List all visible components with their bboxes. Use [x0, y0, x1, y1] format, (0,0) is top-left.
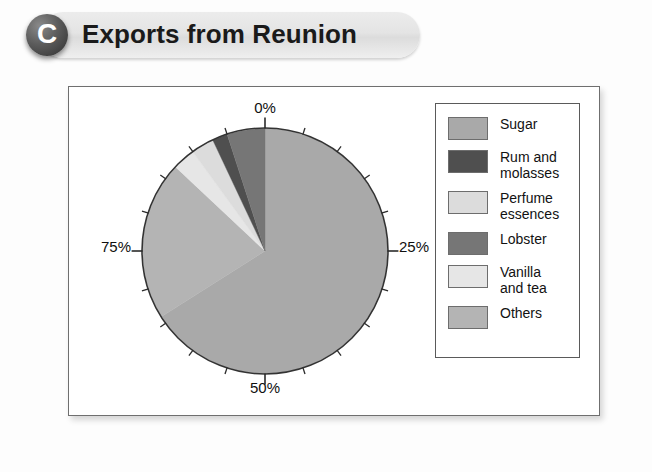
pie-svg: [115, 101, 415, 401]
pie-tick-minor: [337, 350, 341, 356]
legend-item[interactable]: Rum and molasses: [436, 149, 579, 181]
legend-item-label: Vanilla and tea: [500, 264, 547, 296]
legend-item-label: Rum and molasses: [500, 149, 559, 181]
chart-panel: 0% 25% 50% 75% SugarRum and molassesPerf…: [68, 86, 600, 416]
axis-label-left: 75%: [101, 238, 131, 255]
panel-letter-badge: C: [26, 14, 68, 56]
pie-tick-minor: [160, 175, 166, 179]
pie-tick-minor: [364, 175, 370, 179]
axis-label-bottom: 50%: [250, 379, 280, 396]
legend-swatch: [448, 265, 488, 288]
pie-tick-minor: [160, 323, 166, 327]
legend-item[interactable]: Sugar: [436, 116, 579, 140]
legend-swatch: [448, 232, 488, 255]
legend-swatch: [448, 150, 488, 173]
legend-swatch: [448, 117, 488, 140]
pie-slices: [143, 129, 388, 374]
chart-legend: SugarRum and molassesPerfume essencesLob…: [435, 103, 580, 358]
pie-tick-minor: [189, 146, 193, 152]
pie-tick-minor: [364, 323, 370, 327]
axis-label-top: 0%: [254, 99, 276, 116]
chart-title: Exports from Reunion: [82, 19, 357, 50]
legend-swatch: [448, 191, 488, 214]
pie-chart: 0% 25% 50% 75%: [115, 101, 415, 401]
pie-tick-minor: [337, 146, 341, 152]
legend-item[interactable]: Lobster: [436, 231, 579, 255]
legend-swatch: [448, 306, 488, 329]
figure-root: C Exports from Reunion 0% 25% 50% 75% Su…: [0, 0, 652, 472]
legend-item-label: Others: [500, 305, 542, 321]
legend-item-label: Lobster: [500, 231, 547, 247]
legend-item[interactable]: Vanilla and tea: [436, 264, 579, 296]
pie-tick-minor: [189, 350, 193, 356]
legend-item-label: Sugar: [500, 116, 537, 132]
legend-item[interactable]: Perfume essences: [436, 190, 579, 222]
axis-label-right: 25%: [399, 238, 429, 255]
legend-item[interactable]: Others: [436, 305, 579, 329]
panel-letter: C: [37, 20, 57, 48]
legend-item-label: Perfume essences: [500, 190, 559, 222]
